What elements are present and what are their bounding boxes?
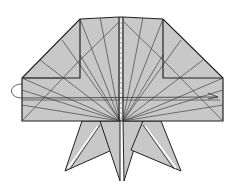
origami-diagram (0, 0, 236, 195)
legs (65, 121, 181, 181)
